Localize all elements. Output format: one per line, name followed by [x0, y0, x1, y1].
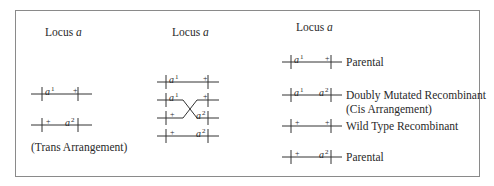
crossover-chromosome-2-and-3 [157, 93, 219, 125]
product-label-cis: (Cis Arrangement) [346, 103, 432, 116]
allele-label: + [170, 111, 175, 119]
crossover-chromosome-1 [157, 75, 219, 89]
allele-label: + [203, 93, 208, 101]
allele-label: + [325, 55, 330, 63]
product-chromosome-2 [282, 88, 342, 102]
allele-label: a2 [319, 147, 329, 160]
trans-caption: (Trans Arrangement) [31, 141, 127, 154]
product-chromosome-1 [282, 55, 342, 69]
allele-label: a2 [319, 85, 329, 98]
recombination-figure: Locus a a1 + + a2 (Trans Arrangement) Lo… [0, 0, 494, 186]
allele-label: + [295, 119, 300, 127]
product-chromosome-4 [282, 150, 342, 164]
allele-label: + [170, 129, 175, 137]
product-chromosome-3 [282, 119, 342, 133]
allele-label: a1 [169, 90, 179, 103]
crossover-heading: Locus a [172, 26, 209, 39]
allele-label: a1 [294, 52, 304, 65]
allele-label: a2 [196, 108, 206, 121]
allele-label: + [73, 87, 78, 95]
products-heading: Locus a [296, 21, 333, 34]
trans-heading: Locus a [45, 26, 82, 39]
allele-label: + [46, 118, 51, 126]
product-label-parental: Parental [346, 56, 384, 69]
allele-label: + [325, 119, 330, 127]
crossover-chromosome-4 [157, 129, 219, 143]
product-label-parental: Parental [346, 151, 384, 164]
allele-label: a1 [294, 85, 304, 98]
allele-label: a1 [45, 84, 55, 97]
allele-label: + [203, 75, 208, 83]
allele-label: a2 [65, 115, 75, 128]
product-label-doubly-mutated: Doubly Mutated Recombinant [346, 89, 486, 102]
allele-label: a2 [196, 126, 206, 139]
product-label-wild-type: Wild Type Recombinant [346, 120, 458, 133]
trans-chromosome-2 [31, 118, 92, 132]
trans-chromosome-1 [31, 87, 92, 101]
allele-label: a1 [169, 72, 179, 85]
allele-label: + [295, 150, 300, 158]
